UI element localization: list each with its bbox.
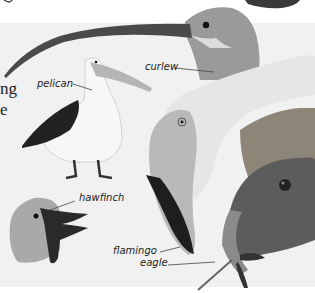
label-hawfinch: hawfinch — [79, 192, 124, 203]
body-text-line-2: e — [0, 100, 8, 120]
label-pelican: pelican — [37, 78, 73, 89]
bird-beaks-illustration — [0, 0, 315, 293]
partial-bird-top-icon — [245, 0, 300, 8]
label-flamingo: flamingo — [113, 245, 157, 256]
body-text-line-1: ng — [0, 79, 17, 99]
eagle-head-icon — [223, 158, 315, 258]
label-curlew: curlew — [145, 61, 178, 72]
label-eagle: eagle — [140, 257, 168, 268]
